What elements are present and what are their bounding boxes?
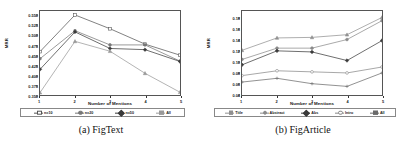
y-tick-mark — [36, 75, 38, 76]
y-axis-label-a: MRR — [4, 38, 9, 48]
legend-figarticle: TitleAbstractAbsIntroAll — [214, 108, 396, 117]
data-point — [346, 72, 349, 75]
data-point — [310, 82, 313, 85]
legend-label: Intro — [345, 111, 353, 115]
y-tick-mark — [36, 45, 38, 46]
y-tick-mark — [36, 35, 38, 36]
data-point — [73, 40, 76, 43]
x-axis-label-a: Number of Mentions — [39, 101, 181, 106]
data-point — [40, 57, 41, 60]
data-point — [109, 44, 112, 47]
caption-figtext: (a) FigText — [0, 124, 202, 135]
y-tick-mark — [238, 28, 240, 29]
caption-figarticle: (b) FigArticle — [202, 124, 404, 135]
data-point — [143, 48, 147, 52]
x-axis-label-b: Number of Mentions — [241, 101, 383, 106]
data-point — [275, 49, 279, 53]
legend-label: All — [380, 111, 385, 115]
y-tick-mark — [36, 65, 38, 66]
y-tick-mark — [238, 72, 240, 73]
legend-marker-icon — [335, 111, 344, 115]
legend-item-n20[interactable]: n=20 — [75, 111, 94, 115]
x-tick-mark — [39, 96, 40, 98]
y-axis-ticks-a: 0.3500.3750.4000.4250.4500.4750.5000.525… — [14, 12, 38, 94]
data-point — [40, 50, 41, 53]
legend-marker-icon — [225, 111, 234, 115]
x-tick-mark — [110, 96, 111, 98]
legend-item-n50[interactable]: n=50 — [115, 111, 134, 115]
plot-area-figarticle: MRR 0.040.060.080.100.120.140.160.18 123… — [202, 0, 404, 122]
legend-marker-icon — [156, 111, 165, 115]
data-point — [311, 70, 314, 73]
legend-item-intro[interactable]: Intro — [335, 111, 353, 115]
y-tick-mark — [238, 94, 240, 95]
legend-item-abstract[interactable]: Abstract — [260, 111, 285, 115]
data-point — [311, 47, 314, 50]
plot-area-figtext: MRR 0.3500.3750.4000.4250.4500.4750.5000… — [0, 0, 202, 122]
legend-marker-icon — [301, 111, 310, 115]
y-tick-mark — [36, 95, 38, 96]
data-point — [345, 85, 348, 88]
y-axis-label-b: MRR — [206, 38, 211, 48]
legend-item-title[interactable]: Title — [225, 111, 243, 115]
data-point — [345, 59, 349, 63]
data-point — [178, 90, 180, 93]
panel-figarticle: MRR 0.040.060.080.100.120.140.160.18 123… — [202, 0, 404, 150]
legend-label: n=20 — [85, 111, 94, 115]
data-point — [242, 80, 244, 83]
legend-item-all[interactable]: All — [156, 111, 171, 115]
data-point — [242, 63, 244, 67]
x-tick-mark — [312, 96, 313, 98]
data-point — [179, 54, 180, 57]
y-tick-mark — [238, 61, 240, 62]
legend-label: All — [166, 111, 171, 115]
legend-item-n10[interactable]: n=10 — [34, 111, 53, 115]
legend-label: Abstract — [270, 111, 285, 115]
data-point — [74, 14, 77, 17]
legend-label: n=50 — [125, 111, 134, 115]
series-line-title — [242, 17, 382, 50]
x-tick-mark — [348, 96, 349, 98]
x-tick-mark — [75, 96, 76, 98]
legend-label: n=10 — [44, 111, 53, 115]
series-canvas-b — [242, 11, 382, 95]
legend-item-abs[interactable]: Abs — [301, 111, 318, 115]
y-tick-mark — [36, 25, 38, 26]
data-point — [381, 19, 382, 22]
axes-figarticle — [241, 10, 383, 96]
legend-item-all[interactable]: All — [370, 111, 385, 115]
data-point — [143, 72, 146, 75]
x-tick-mark — [241, 96, 242, 98]
legend-marker-icon — [260, 111, 269, 115]
data-point — [346, 38, 349, 41]
data-point — [380, 16, 382, 19]
y-tick-mark — [36, 55, 38, 56]
data-point — [242, 58, 243, 61]
y-tick-mark — [238, 39, 240, 40]
axes-figtext — [39, 10, 181, 96]
legend-label: Title — [235, 111, 243, 115]
data-point — [380, 71, 382, 74]
data-point — [310, 50, 314, 54]
data-point — [275, 77, 278, 80]
legend-label: Abs — [311, 111, 318, 115]
legend-figtext: n=10n=20n=50All — [20, 108, 185, 117]
figure-row: MRR 0.3500.3750.4000.4250.4500.4750.5000… — [0, 0, 405, 150]
panel-figtext: MRR 0.3500.3750.4000.4250.4500.4750.5000… — [0, 0, 202, 150]
y-tick-mark — [238, 17, 240, 18]
x-tick-mark — [181, 96, 182, 98]
y-tick-mark — [36, 85, 38, 86]
legend-marker-icon — [34, 111, 43, 115]
legend-marker-icon — [370, 111, 379, 115]
legend-marker-icon — [75, 111, 84, 115]
y-tick-mark — [238, 50, 240, 51]
data-point — [276, 69, 279, 72]
data-point — [242, 74, 243, 77]
y-axis-ticks-b: 0.040.060.080.100.120.140.160.18 — [216, 12, 240, 94]
data-point — [109, 27, 112, 30]
y-tick-mark — [238, 83, 240, 84]
data-point — [381, 66, 382, 69]
legend-marker-icon — [115, 111, 124, 115]
series-canvas-a — [40, 11, 180, 95]
y-tick-mark — [36, 15, 38, 16]
